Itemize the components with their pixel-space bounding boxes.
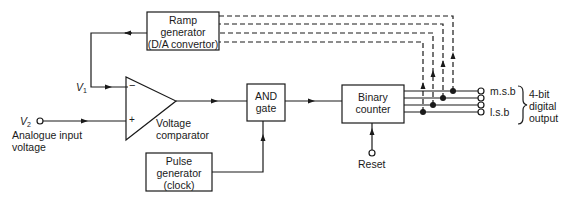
binary-counter-label: Binary counter	[342, 91, 404, 115]
analogue-input-label: Analogue input voltage	[12, 129, 82, 153]
counter-line2: counter	[342, 103, 404, 115]
ramp-line2: generator	[147, 26, 219, 38]
clock-wire	[212, 121, 263, 172]
ramp-line1: Ramp	[147, 14, 219, 26]
msb-label: m.s.b	[490, 85, 516, 97]
comparator-line1: Voltage	[156, 117, 209, 129]
input-line1: Analogue input	[12, 129, 82, 141]
comparator-minus: −	[129, 79, 135, 91]
v2-terminal	[37, 118, 43, 124]
lsb-label: l.s.b	[490, 106, 509, 118]
output-brace	[518, 86, 527, 124]
comparator-plus: +	[129, 114, 135, 126]
counter-line1: Binary	[342, 91, 404, 103]
output-line2: digital	[529, 100, 558, 112]
v2-symbol: V	[20, 115, 27, 127]
pulse-line1: Pulse	[146, 155, 212, 167]
pulse-generator-label: Pulse generator (clock)	[146, 155, 212, 191]
pulse-line3: (clock)	[146, 179, 212, 191]
v1-symbol: V	[76, 81, 83, 93]
and-line2: gate	[247, 102, 285, 114]
comparator-line2: comparator	[156, 129, 209, 141]
reset-label: Reset	[358, 158, 385, 170]
comparator-label: Voltage comparator	[156, 117, 209, 141]
output-label: 4-bit digital output	[529, 88, 558, 124]
v1-label: V1	[76, 81, 87, 97]
ramp-line3: (D/A convertor)	[147, 38, 219, 50]
pulse-line2: generator	[146, 167, 212, 179]
and-gate-label: AND gate	[247, 90, 285, 114]
output-line3: output	[529, 112, 558, 124]
v1-subscript: 1	[83, 87, 87, 94]
and-line1: AND	[247, 90, 285, 102]
v2-subscript: 2	[27, 121, 31, 128]
v1-feedback-wire	[91, 33, 147, 87]
reset-terminal	[369, 150, 375, 156]
input-line2: voltage	[12, 141, 82, 153]
output-line1: 4-bit	[529, 88, 558, 100]
ramp-generator-label: Ramp generator (D/A convertor)	[147, 14, 219, 50]
